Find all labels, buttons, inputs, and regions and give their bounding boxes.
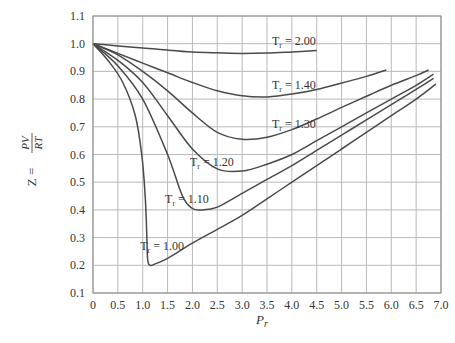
curve-200 (93, 44, 317, 54)
y-tick-label: 1.0 (70, 37, 85, 51)
curve-label-sub: r (197, 162, 200, 171)
y-axis-label-denominator: RT (32, 136, 44, 151)
svg-text:Pr: Pr (255, 312, 268, 329)
compressibility-chart: Tr= 2.00Tr= 1.40Tr= 1.30Tr= 1.20Tr= 1.10… (0, 0, 455, 343)
x-axis-label-main: P (255, 312, 264, 327)
y-tick-label: 0.6 (70, 148, 85, 162)
y-axis-ticks: 0.10.20.30.40.50.60.70.80.91.01.1 (70, 9, 85, 300)
curve-label: Tr= 1.00 (140, 239, 184, 255)
x-tick-label: 7.0 (434, 298, 449, 312)
x-axis-label: Pr (255, 312, 268, 329)
x-axis-label-sub: r (264, 318, 268, 329)
y-axis-label-numerator: PV (19, 135, 31, 151)
x-tick-label: 4.5 (309, 298, 324, 312)
curve-label-sub: r (279, 85, 282, 94)
x-tick-label: 3.5 (260, 298, 275, 312)
curve-label: Tr= 1.30 (272, 117, 316, 133)
x-axis-ticks: 00.51.01.52.02.53.03.54.04.55.05.56.06.5… (90, 298, 449, 312)
curve-label-value: = 2.00 (285, 34, 316, 48)
y-axis-label-z: Z = (24, 168, 39, 187)
curve-label-sub: r (172, 199, 175, 208)
curve-label-value: = 1.10 (178, 192, 209, 206)
curve-label-sub: r (148, 246, 151, 255)
curve-label-sub: r (279, 41, 282, 50)
y-tick-label: 0.9 (70, 64, 85, 78)
x-tick-label: 1.0 (135, 298, 150, 312)
x-tick-label: 6.5 (409, 298, 424, 312)
curve-labels: Tr= 2.00Tr= 1.40Tr= 1.30Tr= 1.20Tr= 1.10… (140, 34, 316, 255)
x-tick-label: 6.0 (384, 298, 399, 312)
curve-label-value: = 1.20 (203, 155, 234, 169)
curve-label-value: = 1.30 (285, 117, 316, 131)
x-tick-label: 5.5 (359, 298, 374, 312)
curve-label: Tr= 1.40 (272, 78, 316, 94)
y-tick-label: 0.3 (70, 231, 85, 245)
y-tick-label: 0.8 (70, 92, 85, 106)
x-tick-label: 3.0 (235, 298, 250, 312)
y-tick-label: 0.7 (70, 120, 85, 134)
curve-label-sub: r (279, 124, 282, 133)
y-tick-label: 0.2 (70, 258, 85, 272)
x-tick-label: 5.0 (334, 298, 349, 312)
y-tick-label: 0.5 (70, 175, 85, 189)
curve-label: Tr= 1.20 (190, 155, 234, 171)
y-tick-label: 1.1 (70, 9, 85, 23)
curve-label-value: = 1.40 (285, 78, 316, 92)
x-tick-label: 1.5 (160, 298, 175, 312)
curve-label-value: = 1.00 (153, 239, 184, 253)
y-axis-label: Z = PV RT (19, 133, 44, 186)
curve-label: Tr= 2.00 (272, 34, 316, 50)
y-tick-label: 0.4 (70, 203, 85, 217)
curve-label: Tr= 1.10 (165, 192, 209, 208)
y-tick-label: 0.1 (70, 286, 85, 300)
x-tick-label: 2.5 (210, 298, 225, 312)
x-tick-label: 0 (90, 298, 96, 312)
x-tick-label: 2.0 (185, 298, 200, 312)
x-tick-label: 0.5 (110, 298, 125, 312)
x-tick-label: 4.0 (284, 298, 299, 312)
